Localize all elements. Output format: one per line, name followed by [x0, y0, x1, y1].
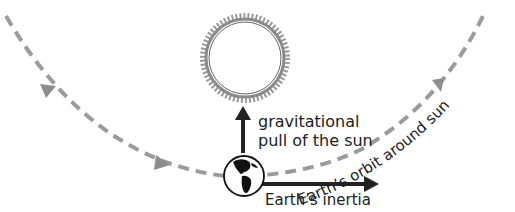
sun-icon [203, 16, 287, 100]
gravity-label-line1: gravitational [258, 112, 359, 131]
orbit-arrow-icon [432, 78, 444, 92]
gravity-arrow-icon [235, 106, 251, 153]
orbit-arrow-icon [40, 84, 56, 98]
gravity-label-line2: pull of the sun [258, 131, 373, 150]
earth-icon [224, 156, 264, 196]
earth-orbit-diagram: gravitational pull of the sun Earth’s in… [0, 0, 515, 212]
